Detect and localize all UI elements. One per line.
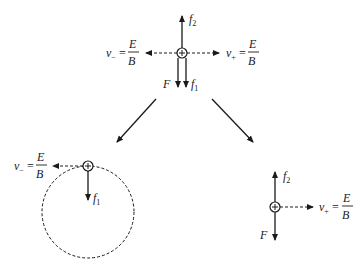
svg-text:B: B (342, 208, 350, 222)
v-plus-formula: v+ = E B (226, 37, 259, 68)
bottom-left-diagram: f1 v− = E B (14, 150, 134, 258)
positive-charge-icon (83, 161, 93, 171)
f2-label: f2 (283, 169, 290, 185)
bottom-right-diagram: f2 F v+ = E B (259, 169, 353, 242)
svg-text:=: = (27, 159, 34, 173)
svg-text:B: B (36, 167, 44, 181)
svg-text:v+: v+ (226, 46, 236, 62)
svg-text:=: = (239, 46, 246, 60)
branch-arrow-right (212, 99, 253, 142)
svg-text:=: = (119, 46, 126, 60)
svg-text:=: = (332, 200, 339, 214)
svg-text:E: E (248, 37, 257, 51)
F-label: F (259, 228, 268, 242)
svg-text:v−: v− (106, 46, 116, 62)
svg-text:B: B (128, 54, 136, 68)
svg-text:E: E (342, 191, 351, 205)
branch-arrow-left (117, 99, 156, 142)
v-minus-formula: v− = E B (14, 150, 47, 181)
svg-text:v−: v− (14, 159, 24, 175)
top-diagram: f2 F f1 v− = E B v+ = E B (106, 12, 259, 93)
positive-charge-icon (177, 48, 187, 58)
v-minus-formula: v− = E B (106, 37, 139, 68)
force-diagram: f2 F f1 v− = E B v+ = E B (0, 0, 361, 274)
f1-label: f1 (93, 191, 100, 207)
f2-label: f2 (189, 12, 196, 28)
svg-text:B: B (248, 54, 256, 68)
svg-text:v+: v+ (319, 200, 329, 216)
v-plus-formula: v+ = E B (319, 191, 353, 222)
F-label: F (162, 77, 171, 91)
f1-label: f1 (191, 77, 198, 93)
positive-charge-icon (270, 202, 280, 212)
svg-text:E: E (128, 37, 137, 51)
svg-text:E: E (36, 150, 45, 164)
